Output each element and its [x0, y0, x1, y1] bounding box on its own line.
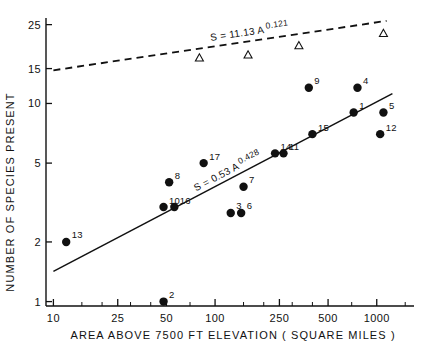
data-point-triangle[interactable]	[295, 42, 303, 49]
x-tick-label-500: 500	[318, 312, 338, 324]
data-point-label-12: 12	[386, 122, 397, 133]
fit-line-island-regression	[53, 94, 392, 272]
data-point-6[interactable]	[237, 209, 245, 217]
data-point-8[interactable]	[165, 178, 173, 186]
data-point-label-5: 5	[389, 100, 394, 111]
y-tick-label-1: 1	[34, 296, 41, 308]
data-point-triangle[interactable]	[195, 54, 203, 61]
data-point-label-1: 1	[359, 100, 364, 111]
y-axis-title: NUMBER OF SPECIES PRESENT	[4, 92, 16, 291]
y-tick-label-10: 10	[28, 97, 41, 109]
x-axis-title: AREA ABOVE 7500 FT ELEVATION ( SQUARE MI…	[70, 329, 395, 341]
data-point-label-6: 6	[247, 200, 252, 211]
data-point-label-15: 15	[318, 122, 329, 133]
data-point-5[interactable]	[379, 108, 387, 116]
data-point-label-4: 4	[363, 75, 368, 86]
data-point-label-2: 2	[169, 289, 174, 300]
data-point-1[interactable]	[349, 108, 357, 116]
fit-line-mainland-regression	[53, 21, 386, 70]
data-point-label-16: 16	[180, 195, 191, 206]
species-area-figure: 1251015251025501002505001000AREA ABOVE 7…	[0, 0, 422, 350]
data-point-16[interactable]	[170, 203, 178, 211]
data-point-17[interactable]	[199, 159, 207, 167]
y-tick-label-5: 5	[34, 157, 41, 169]
data-point-13[interactable]	[62, 238, 70, 246]
x-tick-label-25: 25	[111, 312, 124, 324]
x-tick-label-10: 10	[47, 312, 60, 324]
y-tick-label-25: 25	[28, 19, 41, 31]
data-point-3[interactable]	[227, 209, 235, 217]
data-point-7[interactable]	[239, 183, 247, 191]
data-point-label-7: 7	[249, 174, 254, 185]
chart-canvas: 1251015251025501002505001000AREA ABOVE 7…	[0, 0, 422, 350]
y-tick-label-2: 2	[34, 236, 41, 248]
data-point-triangle[interactable]	[379, 29, 387, 36]
x-tick-label-250: 250	[270, 312, 290, 324]
equation-mainland-regression: S = 11.13 A0.121	[209, 17, 290, 42]
data-point-9[interactable]	[305, 84, 313, 92]
y-tick-label-15: 15	[28, 63, 41, 75]
data-point-4[interactable]	[353, 84, 361, 92]
data-point-2[interactable]	[159, 297, 167, 305]
x-tick-label-1000: 1000	[364, 312, 390, 324]
data-point-triangle[interactable]	[244, 51, 252, 58]
data-point-14[interactable]	[271, 149, 279, 157]
x-tick-label-50: 50	[160, 312, 173, 324]
data-point-11[interactable]	[279, 149, 287, 157]
data-point-15[interactable]	[308, 130, 316, 138]
data-point-label-8: 8	[175, 170, 180, 181]
data-point-label-13: 13	[72, 229, 83, 240]
data-point-label-11: 11	[289, 141, 299, 152]
equation-island-regression: S = 0.53 A0.428	[191, 146, 263, 193]
data-point-12[interactable]	[376, 130, 384, 138]
data-point-label-17: 17	[209, 151, 220, 162]
data-point-label-9: 9	[314, 75, 319, 86]
data-point-10[interactable]	[159, 203, 167, 211]
x-tick-label-100: 100	[205, 312, 225, 324]
